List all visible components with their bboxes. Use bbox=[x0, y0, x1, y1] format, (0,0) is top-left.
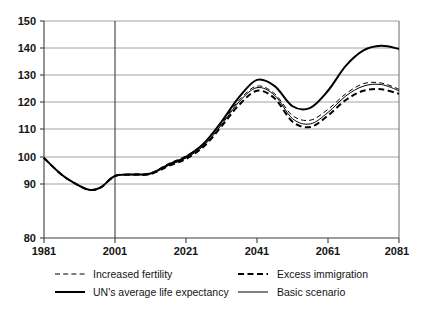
y-axis-tick-labels: 150 140 130 120 110 100 90 80 bbox=[18, 15, 36, 244]
chart-frame bbox=[44, 21, 399, 238]
x-tick-label-2021: 2021 bbox=[174, 245, 198, 257]
x-axis-tick-labels: 1981 2001 2021 2041 2061 2081 bbox=[32, 245, 409, 257]
x-tick-label-2041: 2041 bbox=[245, 245, 269, 257]
series-increased-fertility bbox=[44, 82, 399, 190]
x-tick-label-2061: 2061 bbox=[316, 245, 340, 257]
y-tick-label-80: 80 bbox=[24, 232, 36, 244]
y-tick-marks bbox=[40, 21, 44, 238]
y-tick-label-90: 90 bbox=[24, 178, 36, 190]
series-un-average-life-expectancy bbox=[44, 46, 399, 190]
y-tick-label-120: 120 bbox=[18, 96, 36, 108]
series-excess-immigration bbox=[44, 89, 399, 190]
legend-label-basic-scenario: Basic scenario bbox=[277, 286, 345, 298]
chart-figure: 150 140 130 120 110 100 90 80 1981 2001 … bbox=[0, 0, 430, 309]
y-tick-label-100: 100 bbox=[18, 151, 36, 163]
legend-label-excess-immigration: Excess immigration bbox=[277, 268, 368, 280]
legend-label-increased-fertility: Increased fertility bbox=[93, 268, 173, 280]
x-tick-label-1981: 1981 bbox=[32, 245, 56, 257]
line-chart: 150 140 130 120 110 100 90 80 1981 2001 … bbox=[0, 0, 430, 309]
x-tick-label-2081: 2081 bbox=[385, 245, 409, 257]
x-tick-label-2001: 2001 bbox=[103, 245, 127, 257]
y-tick-label-150: 150 bbox=[18, 15, 36, 27]
y-tick-label-140: 140 bbox=[18, 42, 36, 54]
y-tick-label-110: 110 bbox=[18, 123, 36, 135]
chart-legend: Increased fertility Excess immigration U… bbox=[55, 268, 368, 298]
data-series-layer bbox=[44, 46, 399, 190]
y-tick-label-130: 130 bbox=[18, 69, 36, 81]
x-tick-marks bbox=[44, 238, 399, 243]
gridlines bbox=[44, 21, 399, 184]
legend-label-un-average-life-expectancy: UN's average life expectancy bbox=[93, 286, 229, 298]
